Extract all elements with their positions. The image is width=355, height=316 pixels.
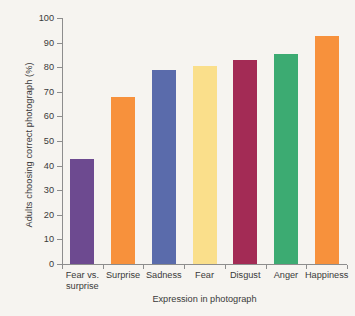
y-tick-mark — [57, 116, 62, 117]
bar — [152, 70, 176, 264]
y-tick-mark — [57, 43, 62, 44]
bar — [193, 66, 217, 264]
y-tick-mark — [57, 92, 62, 93]
y-tick-label: 30 — [44, 185, 54, 195]
y-tick-label: 0 — [49, 259, 54, 269]
x-tick-mark — [62, 265, 63, 269]
x-tick-mark — [225, 265, 226, 269]
y-tick-mark — [57, 166, 62, 167]
y-tick-label: 100 — [39, 13, 54, 23]
bar — [70, 159, 94, 264]
y-axis-line — [62, 18, 63, 265]
x-tick-mark — [266, 265, 267, 269]
y-tick-mark — [57, 190, 62, 191]
y-tick-mark — [57, 239, 62, 240]
y-tick-label: 90 — [44, 38, 54, 48]
y-tick-label: 60 — [44, 111, 54, 121]
x-tick-mark — [347, 265, 348, 269]
bar-chart: Adults choosing correct photograph (%) 0… — [0, 0, 355, 316]
y-tick-mark — [57, 67, 62, 68]
x-tick-label: Happiness — [298, 270, 355, 281]
x-tick-mark — [103, 265, 104, 269]
y-tick-label: 70 — [44, 87, 54, 97]
bar — [233, 60, 257, 264]
y-tick-label: 10 — [44, 234, 54, 244]
x-tick-mark — [184, 265, 185, 269]
y-tick-label: 40 — [44, 161, 54, 171]
x-axis-line — [62, 264, 347, 265]
y-axis-title: Adults choosing correct photograph (%) — [24, 20, 34, 270]
x-tick-mark — [306, 265, 307, 269]
bar — [111, 97, 135, 264]
x-axis-title: Expression in photograph — [62, 294, 347, 304]
bar — [274, 54, 298, 264]
y-tick-label: 20 — [44, 210, 54, 220]
plot-area: 0102030405060708090100 Fear vs. surprise… — [62, 18, 347, 265]
bar — [315, 36, 339, 264]
y-tick-mark — [57, 141, 62, 142]
y-tick-label: 50 — [44, 136, 54, 146]
x-tick-mark — [143, 265, 144, 269]
y-tick-label: 80 — [44, 62, 54, 72]
y-tick-mark — [57, 18, 62, 19]
y-tick-mark — [57, 215, 62, 216]
